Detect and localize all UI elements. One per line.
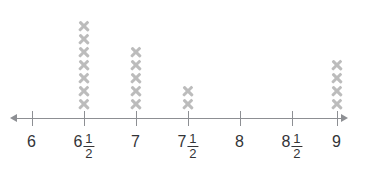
axis-label-tick-6-half: 612 [73,132,94,160]
x-mark-icon [78,19,90,32]
axis-label-tick-8: 8 [235,132,245,150]
x-mark-icon [130,58,142,71]
x-mark-icon [130,97,142,110]
x-mark-icon [331,84,343,97]
axis-label-whole: 6 [73,132,83,150]
x-mark-icon [78,84,90,97]
axis-label-whole: 8 [281,132,291,150]
x-mark-icon [331,71,343,84]
axis-label-whole: 6 [27,132,37,150]
x-mark-icon [78,97,90,110]
axis-label-fraction: 12 [187,132,198,160]
fraction-numerator: 1 [291,132,302,147]
x-mark-icon [182,84,194,97]
axis-label-tick-8-half: 812 [281,132,302,160]
fraction-denominator: 2 [83,147,94,161]
axis-label-whole: 7 [177,132,187,150]
axis-arrow-right-icon [341,114,348,122]
x-mark-icon [130,45,142,58]
fraction-denominator: 2 [187,147,198,161]
axis-tick-tick-8 [240,111,241,126]
axis-label-tick-7-half: 712 [177,132,198,160]
axis-label-tick-9: 9 [332,132,342,150]
line-plot-figure: 6612771288129 [0,0,365,178]
axis-tick-tick-8-half [292,111,293,126]
axis-tick-tick-9 [337,111,338,126]
x-mark-stack-tick-7-half [182,84,194,110]
x-mark-icon [182,97,194,110]
x-mark-icon [331,58,343,71]
axis-tick-tick-7 [136,111,137,126]
axis-arrow-left-icon [10,114,17,122]
axis-label-tick-7: 7 [131,132,141,150]
axis-tick-tick-6 [32,111,33,126]
x-mark-icon [78,45,90,58]
axis-label-whole: 9 [332,132,342,150]
x-mark-icon [130,71,142,84]
x-mark-stack-tick-6-half [78,19,90,110]
x-mark-stack-tick-9 [331,58,343,110]
x-mark-icon [78,58,90,71]
axis-label-tick-6: 6 [27,132,37,150]
x-mark-icon [78,71,90,84]
fraction-numerator: 1 [83,132,94,147]
x-mark-icon [130,84,142,97]
x-mark-stack-tick-7 [130,45,142,110]
x-mark-icon [331,97,343,110]
axis-label-whole: 8 [235,132,245,150]
axis-tick-tick-6-half [84,111,85,126]
axis-label-whole: 7 [131,132,141,150]
number-line-axis [14,118,346,119]
fraction-numerator: 1 [187,132,198,147]
fraction-denominator: 2 [291,147,302,161]
axis-label-fraction: 12 [83,132,94,160]
axis-label-fraction: 12 [291,132,302,160]
axis-tick-tick-7-half [188,111,189,126]
x-mark-icon [78,32,90,45]
